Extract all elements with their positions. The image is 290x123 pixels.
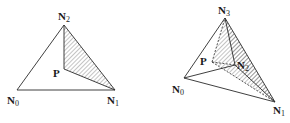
label-n3: N3: [218, 4, 230, 18]
label-p: P: [200, 55, 207, 67]
label-n1: N1: [273, 104, 285, 118]
label-n0: N0: [172, 83, 184, 97]
tetrahedron-figure: N3 N0 N1 N2 P: [172, 4, 285, 118]
label-n2: N2: [58, 10, 70, 24]
triangle-figure: N2 N0 N1 P: [7, 10, 119, 108]
label-p: P: [53, 67, 60, 79]
label-n1: N1: [107, 94, 119, 108]
label-n0: N0: [7, 94, 19, 108]
diagram-canvas: N2 N0 N1 P N3 N0 N1 N2 P: [0, 0, 290, 123]
